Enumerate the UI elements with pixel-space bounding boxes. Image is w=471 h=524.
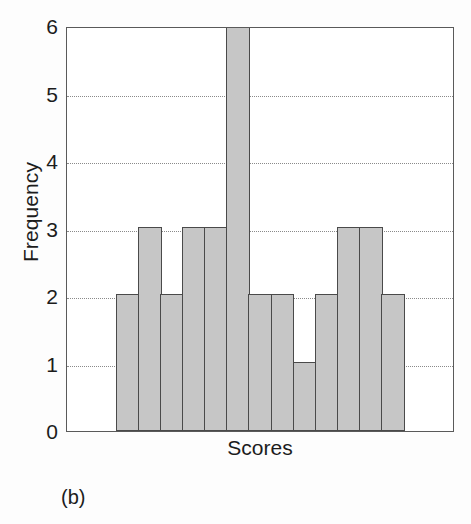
histogram-figure: Frequency 0123456 Scores (b) xyxy=(0,0,471,524)
plot-area xyxy=(66,27,454,432)
bar xyxy=(381,294,405,431)
y-axis-tick-label: 5 xyxy=(32,84,58,105)
bar xyxy=(293,362,317,432)
y-axis-tick-label: 1 xyxy=(32,354,58,375)
bar-series xyxy=(67,28,453,431)
x-axis-title: Scores xyxy=(66,436,454,460)
y-axis-tick-label: 3 xyxy=(32,219,58,240)
bar xyxy=(337,227,361,432)
y-axis-tick-label: 4 xyxy=(32,151,58,172)
bar xyxy=(359,227,383,432)
bar xyxy=(271,294,295,431)
y-axis-tick-label: 6 xyxy=(32,16,58,37)
bar xyxy=(138,227,162,432)
bar xyxy=(248,294,272,431)
bar xyxy=(204,227,228,432)
bar xyxy=(315,294,339,431)
bar xyxy=(160,294,184,431)
bar xyxy=(182,227,206,432)
y-axis-tick-labels: 0123456 xyxy=(28,0,58,524)
figure-caption: (b) xyxy=(61,486,85,509)
y-axis-tick-label: 2 xyxy=(32,286,58,307)
y-axis-tick-label: 0 xyxy=(32,421,58,442)
bar xyxy=(226,27,250,431)
bar xyxy=(116,294,140,431)
